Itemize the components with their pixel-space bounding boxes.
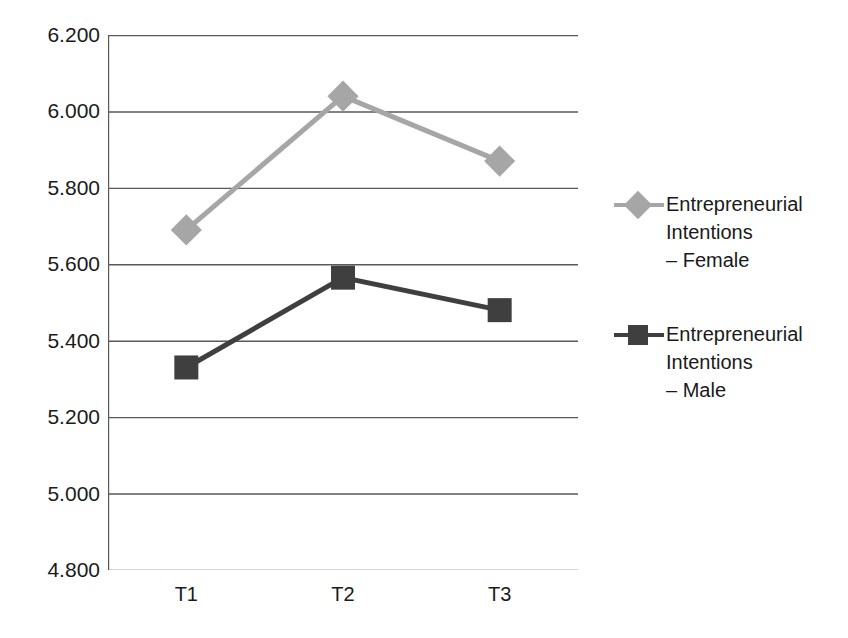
y-tick-label: 5.200: [4, 406, 100, 427]
y-tick-label: 4.800: [4, 559, 100, 580]
y-tick-label: 6.200: [4, 24, 100, 45]
line-chart: 6.2006.0005.8005.6005.4005.2005.0004.800…: [0, 0, 848, 638]
y-tick-label: 6.000: [4, 100, 100, 121]
series-line-0: [186, 96, 499, 230]
plot-svg: [108, 35, 578, 570]
series-line-1: [186, 278, 499, 368]
y-tick-label: 5.000: [4, 483, 100, 504]
legend-key-diamond-icon: [612, 192, 666, 218]
legend-label: Entrepreneurial Intentions – Male: [666, 320, 848, 404]
y-tick-label: 5.600: [4, 253, 100, 274]
x-tick-label: T1: [175, 583, 198, 605]
x-tick-label: T2: [331, 583, 354, 605]
legend-key-marker: [624, 191, 652, 219]
plot-area: [108, 35, 578, 570]
legend-entry-male[interactable]: Entrepreneurial Intentions – Male: [612, 320, 848, 404]
data-point-marker: [488, 298, 512, 322]
legend-entry-female[interactable]: Entrepreneurial Intentions – Female: [612, 190, 848, 274]
legend-label: Entrepreneurial Intentions – Female: [666, 190, 848, 274]
y-tick-label: 5.800: [4, 177, 100, 198]
x-tick-label: T3: [488, 583, 511, 605]
y-axis: 6.2006.0005.8005.6005.4005.2005.0004.800: [0, 0, 100, 638]
data-point-marker: [331, 266, 355, 290]
y-tick-label: 5.400: [4, 330, 100, 351]
x-axis: T1T2T3: [108, 583, 578, 613]
legend-key-square-icon: [612, 322, 666, 348]
data-point-marker: [484, 146, 515, 177]
legend-key-marker: [628, 325, 648, 345]
data-point-marker: [174, 355, 198, 379]
